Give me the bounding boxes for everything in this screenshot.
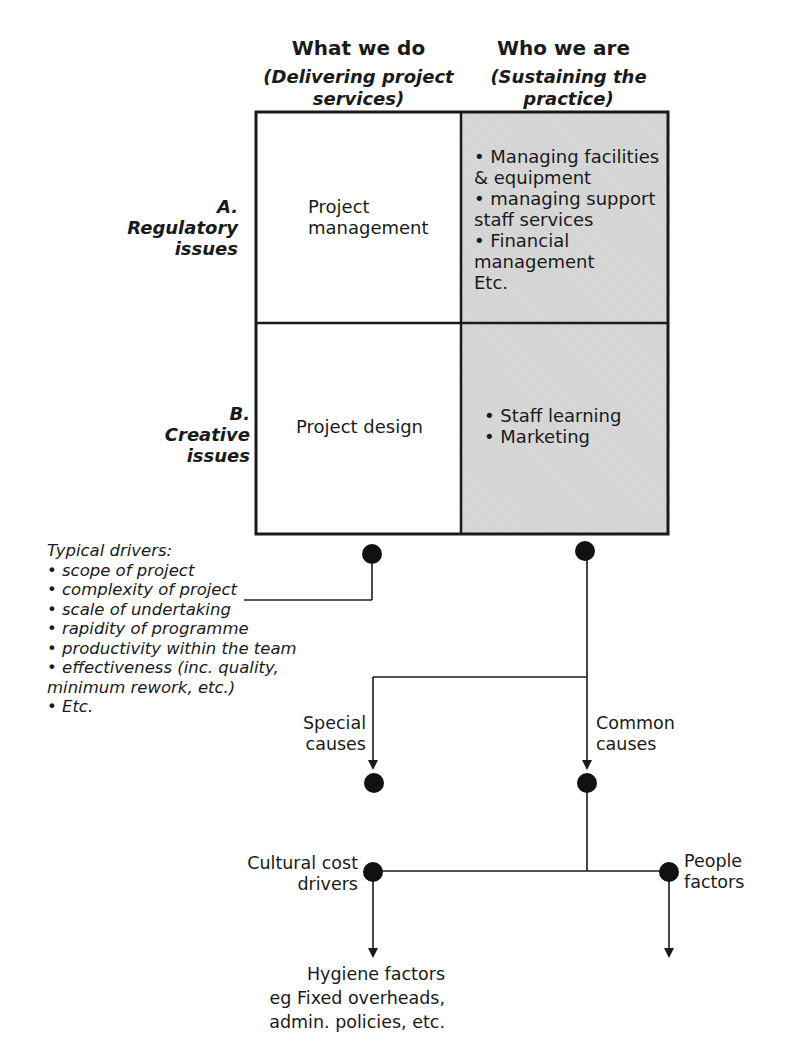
node-dot-who-we-are bbox=[575, 541, 595, 561]
node-dot-common-causes bbox=[577, 773, 597, 793]
label-people-factors-line1: People bbox=[684, 851, 744, 872]
label-common-causes-line2: causes bbox=[596, 734, 675, 755]
typical-driver-item: • rapidity of programme bbox=[47, 619, 367, 639]
node-dot-people-factors bbox=[659, 862, 679, 882]
label-special-causes-line1: Special bbox=[262, 713, 366, 734]
node-dot-cultural-cost-drivers bbox=[363, 862, 383, 882]
label-hygiene-factors-line2: eg Fixed overheads, bbox=[240, 986, 445, 1010]
label-cultural-cost-drivers-line1: Cultural cost bbox=[210, 853, 358, 874]
label-cultural-cost-drivers-line2: drivers bbox=[210, 874, 358, 895]
typical-driver-item: • complexity of project bbox=[47, 580, 367, 600]
typical-driver-item: • scope of project bbox=[47, 561, 367, 581]
label-special-causes: Special causes bbox=[262, 713, 366, 755]
label-common-causes-line1: Common bbox=[596, 713, 675, 734]
label-hygiene-factors-line1: Hygiene factors bbox=[240, 962, 445, 986]
typical-driver-item: minimum rework, etc.) bbox=[47, 678, 367, 698]
label-hygiene-factors-line3: admin. policies, etc. bbox=[240, 1010, 445, 1034]
label-special-causes-line2: causes bbox=[262, 734, 366, 755]
connector-lines bbox=[0, 0, 786, 1064]
label-hygiene-factors: Hygiene factors eg Fixed overheads, admi… bbox=[240, 962, 445, 1034]
label-cultural-cost-drivers: Cultural cost drivers bbox=[210, 853, 358, 895]
label-people-factors: People factors bbox=[684, 851, 744, 893]
typical-driver-item: • effectiveness (inc. quality, bbox=[47, 658, 367, 678]
typical-drivers-heading: Typical drivers: bbox=[47, 541, 367, 561]
label-people-factors-line2: factors bbox=[684, 872, 744, 893]
node-dot-special-causes bbox=[364, 773, 384, 793]
label-common-causes: Common causes bbox=[596, 713, 675, 755]
typical-drivers-list: Typical drivers: • scope of project • co… bbox=[47, 541, 367, 717]
typical-driver-item: • productivity within the team bbox=[47, 639, 367, 659]
typical-driver-item: • scale of undertaking bbox=[47, 600, 367, 620]
